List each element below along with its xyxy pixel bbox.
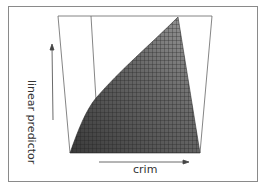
surface xyxy=(70,17,200,153)
y-axis-arrow xyxy=(50,44,54,120)
x-axis-label: crim xyxy=(133,163,157,176)
y-axis-label: linear predictor xyxy=(25,80,38,160)
